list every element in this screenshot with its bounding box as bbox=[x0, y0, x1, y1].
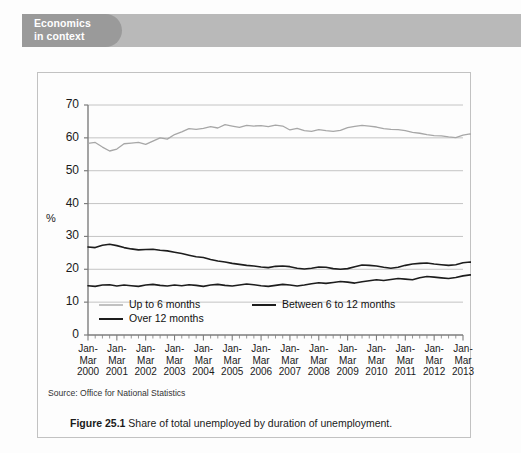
legend-label: Over 12 months bbox=[129, 312, 204, 324]
y-axis-tick: 50 bbox=[55, 163, 79, 177]
source-note: Source: Office for National Statistics bbox=[48, 388, 185, 398]
y-axis-tick: 30 bbox=[55, 228, 79, 242]
figure-caption: Figure 25.1 Share of total unemployed by… bbox=[70, 417, 450, 429]
x-axis-tick: Jan- Mar 2013 bbox=[448, 343, 478, 378]
x-axis-tick: Jan- Mar 2000 bbox=[73, 343, 103, 378]
y-axis-tick: 0 bbox=[55, 327, 79, 341]
x-axis-tick: Jan- Mar 2007 bbox=[275, 343, 305, 378]
legend-label: Up to 6 months bbox=[129, 298, 200, 310]
x-axis-tick: Jan- Mar 2008 bbox=[304, 343, 334, 378]
x-axis-tick: Jan- Mar 2009 bbox=[333, 343, 363, 378]
caption-text: Share of total unemployed by duration of… bbox=[125, 417, 392, 429]
y-axis-tick: 10 bbox=[55, 294, 79, 308]
x-axis-tick: Jan- Mar 2005 bbox=[217, 343, 247, 378]
chart-area: 010203040506070Jan- Mar 2000Jan- Mar 200… bbox=[37, 92, 471, 392]
x-axis-tick: Jan- Mar 2011 bbox=[390, 343, 420, 378]
banner-title: Economics in context bbox=[34, 17, 126, 43]
x-axis-tick: Jan- Mar 2006 bbox=[246, 343, 276, 378]
x-axis-tick: Jan- Mar 2010 bbox=[361, 343, 391, 378]
x-axis-tick: Jan- Mar 2003 bbox=[160, 343, 190, 378]
y-axis-tick: 60 bbox=[55, 130, 79, 144]
y-axis-tick: 70 bbox=[55, 97, 79, 111]
legend-label: Between 6 to 12 months bbox=[282, 298, 395, 310]
x-axis-tick: Jan- Mar 2004 bbox=[188, 343, 218, 378]
x-axis-tick: Jan- Mar 2012 bbox=[419, 343, 449, 378]
caption-prefix: Figure 25.1 bbox=[70, 417, 125, 429]
y-axis-tick: 20 bbox=[55, 261, 79, 275]
x-axis-tick: Jan- Mar 2001 bbox=[102, 343, 132, 378]
y-axis-label: % bbox=[46, 212, 56, 224]
y-axis-tick: 40 bbox=[55, 196, 79, 210]
x-axis-tick: Jan- Mar 2002 bbox=[131, 343, 161, 378]
